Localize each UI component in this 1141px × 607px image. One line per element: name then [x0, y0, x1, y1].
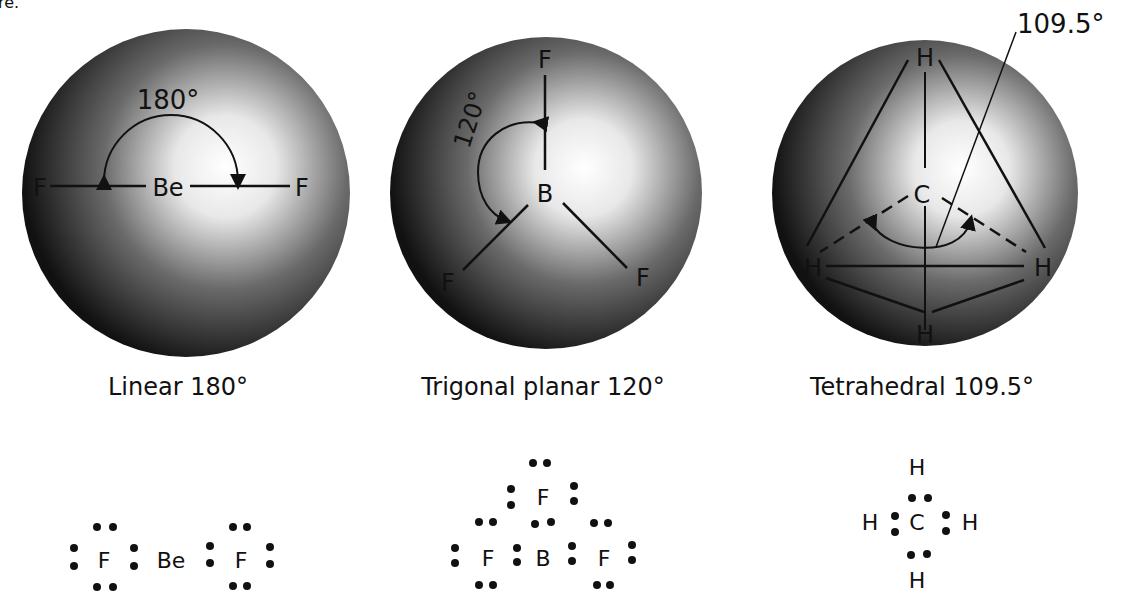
- outer-atom-h-left: H: [804, 254, 822, 282]
- lewis-atom-h-left: H: [862, 510, 879, 535]
- linear-panel: 180° Be F F Linear 180°: [22, 29, 350, 401]
- lewis-atom-c: C: [909, 510, 924, 535]
- lewis-atom-f-top: F: [537, 485, 550, 510]
- caption-tetrahedral: Tetrahedral 109.5°: [809, 373, 1034, 401]
- cropped-text-fragment: re.: [0, 0, 19, 12]
- angle-label: 109.5°: [1017, 9, 1104, 39]
- outer-atom-h-bottom: H: [916, 321, 934, 349]
- outer-atom-f-left: F: [441, 269, 455, 297]
- vsepr-diagram: re. 180° Be F F Linear 180° 120° F B F F…: [0, 0, 1141, 607]
- outer-atom-f-right: F: [636, 264, 650, 292]
- tetrahedral-panel: 109.5° H C H H H Tetrahedral 109.5°: [772, 9, 1104, 401]
- lewis-atom-be: Be: [157, 548, 186, 573]
- lewis-atom-f-left: F: [482, 546, 495, 571]
- outer-atom-f-left: F: [33, 174, 47, 202]
- lewis-structure-bf3: F F B F: [451, 459, 636, 589]
- outer-atom-h-top: H: [916, 44, 934, 72]
- lewis-atom-h-right: H: [962, 510, 979, 535]
- lewis-atom-f: F: [235, 548, 248, 573]
- outer-atom-f-right: F: [295, 174, 309, 202]
- lewis-structure-bef2: F Be F: [70, 523, 274, 591]
- lewis-atom-f-right: F: [598, 546, 611, 571]
- central-atom-b: B: [537, 180, 553, 208]
- outer-atom-f-top: F: [538, 46, 552, 74]
- caption-trigonal-planar: Trigonal planar 120°: [420, 373, 665, 401]
- lewis-atom-f: F: [98, 548, 111, 573]
- lewis-atom-h-top: H: [909, 455, 926, 480]
- trigonal-planar-panel: 120° F B F F Trigonal planar 120°: [390, 37, 702, 401]
- caption-linear: Linear 180°: [108, 373, 248, 401]
- central-atom-be: Be: [152, 174, 183, 202]
- central-atom-c: C: [914, 181, 931, 209]
- lewis-atom-b: B: [535, 546, 550, 571]
- outer-atom-h-right: H: [1034, 254, 1052, 282]
- lewis-structure-ch4: H H C H H: [862, 455, 979, 593]
- angle-label: 180°: [137, 85, 200, 115]
- lewis-atom-h-bottom: H: [909, 568, 926, 593]
